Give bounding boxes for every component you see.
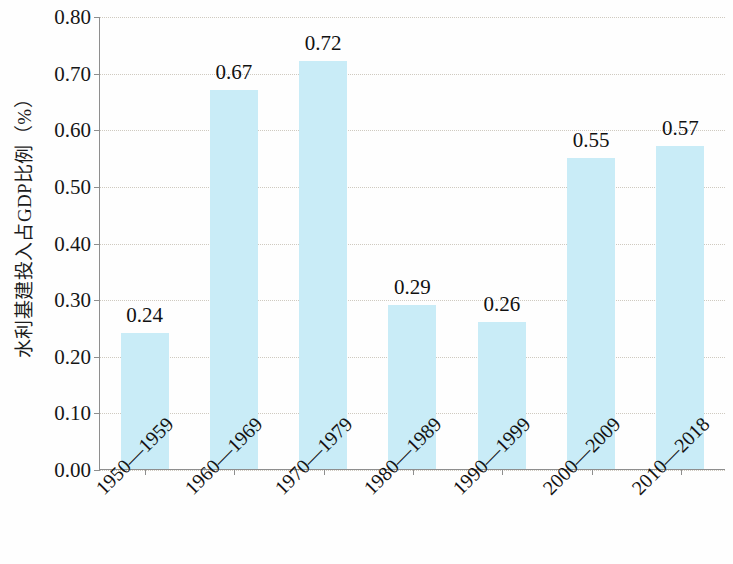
y-tick-label: 0.00 (54, 460, 100, 481)
y-axis-title: 水利基建投入占GDP比例（%） (9, 24, 36, 424)
plot-area: 0.000.100.200.300.400.500.600.700.80 0.2… (99, 17, 725, 470)
y-tick-label: 0.80 (54, 7, 100, 28)
x-tick-mark (502, 469, 503, 475)
bar-slot: 0.29 (368, 17, 457, 469)
bar-slot: 0.57 (636, 17, 725, 469)
y-tick-label: 0.70 (54, 63, 100, 84)
bars-group: 0.240.670.720.290.260.550.57 (100, 17, 725, 469)
bar-value-label: 0.67 (216, 62, 253, 83)
x-tick-mark (592, 469, 593, 475)
bar-slot: 0.55 (546, 17, 635, 469)
y-tick-label: 0.30 (54, 290, 100, 311)
bar[interactable] (299, 61, 347, 469)
bar-value-label: 0.24 (126, 305, 163, 326)
bar-slot: 0.26 (457, 17, 546, 469)
bar-value-label: 0.29 (394, 277, 431, 298)
bar-slot: 0.67 (189, 17, 278, 469)
x-tick-mark (681, 469, 682, 475)
y-tick-label: 0.20 (54, 346, 100, 367)
x-tick-mark (324, 469, 325, 475)
chart-figure: 水利基建投入占GDP比例（%） 0.000.100.200.300.400.50… (0, 0, 733, 564)
bar-value-label: 0.57 (662, 118, 699, 139)
y-tick-label: 0.40 (54, 233, 100, 254)
bar-slot: 0.24 (100, 17, 189, 469)
y-tick-label: 0.60 (54, 120, 100, 141)
x-tick-mark (234, 469, 235, 475)
bar-value-label: 0.55 (573, 130, 610, 151)
bar-value-label: 0.26 (483, 294, 520, 315)
x-tick-mark (413, 469, 414, 475)
y-tick-label: 0.10 (54, 403, 100, 424)
x-tick-mark (145, 469, 146, 475)
bar-value-label: 0.72 (305, 33, 342, 54)
bar-slot: 0.72 (279, 17, 368, 469)
y-tick-label: 0.50 (54, 176, 100, 197)
